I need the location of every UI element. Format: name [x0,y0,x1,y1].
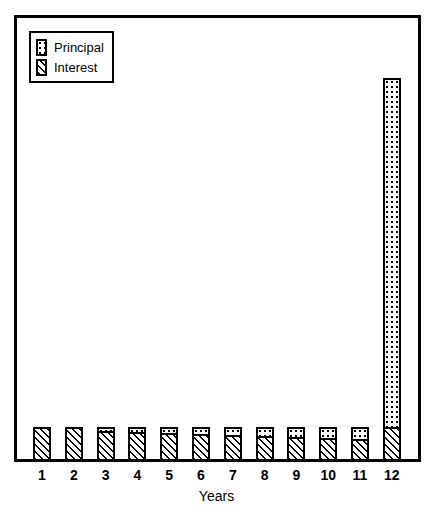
bar-year-4 [128,427,146,459]
bar-segment-principal-year-12 [383,78,401,428]
bar-year-12 [383,78,401,459]
legend-swatch-interest-icon [36,59,47,76]
bar-segment-principal-year-10 [319,427,337,439]
bar-year-9 [287,427,305,459]
x-tick-label-5: 5 [154,466,184,484]
x-tick-label-8: 8 [250,466,280,484]
bar-year-3 [97,427,115,459]
plot-area: Principal Interest [17,18,418,459]
bar-segment-interest-year-6 [192,435,210,459]
x-axis-tick-labels: 123456789101112 [0,466,433,486]
bar-segment-interest-year-3 [97,432,115,459]
legend-item-principal: Principal [36,37,104,57]
bar-segment-principal-year-11 [351,427,369,440]
bar-segment-interest-year-10 [319,439,337,459]
bar-segment-interest-year-4 [128,433,146,459]
x-tick-label-7: 7 [218,466,248,484]
bar-year-5 [160,427,178,459]
bar-year-6 [192,427,210,459]
bar-segment-principal-year-7 [224,427,242,436]
legend-label-interest: Interest [54,59,97,76]
x-tick-label-2: 2 [59,466,89,484]
bar-segment-principal-year-9 [287,427,305,438]
x-tick-label-1: 1 [27,466,57,484]
x-tick-label-4: 4 [122,466,152,484]
x-tick-label-10: 10 [313,466,343,484]
bar-segment-interest-year-2 [65,428,83,459]
bar-year-7 [224,427,242,459]
bar-segment-principal-year-5 [160,427,178,434]
x-tick-label-9: 9 [281,466,311,484]
x-axis-title: Years [0,487,433,505]
legend-label-principal: Principal [54,39,104,56]
bar-segment-interest-year-12 [383,428,401,459]
x-tick-label-3: 3 [91,466,121,484]
bar-segment-interest-year-5 [160,434,178,459]
bar-segment-interest-year-8 [256,437,274,459]
bar-year-8 [256,427,274,459]
chart-root: Principal Interest 123456789101112 Years [0,0,433,514]
bar-segment-interest-year-9 [287,438,305,459]
bar-segment-principal-year-6 [192,427,210,435]
bar-segment-interest-year-11 [351,440,369,459]
bar-segment-interest-year-1 [33,428,51,459]
x-tick-label-11: 11 [345,466,375,484]
bar-year-2 [65,427,83,459]
bar-year-11 [351,427,369,459]
plot-frame: Principal Interest [14,15,421,462]
bar-year-10 [319,427,337,459]
bar-segment-interest-year-7 [224,436,242,459]
legend-swatch-principal-icon [36,39,47,56]
bar-year-1 [33,427,51,459]
chart-legend: Principal Interest [29,31,114,83]
bar-segment-principal-year-8 [256,427,274,437]
legend-item-interest: Interest [36,57,104,77]
x-tick-label-6: 6 [186,466,216,484]
x-tick-label-12: 12 [377,466,407,484]
